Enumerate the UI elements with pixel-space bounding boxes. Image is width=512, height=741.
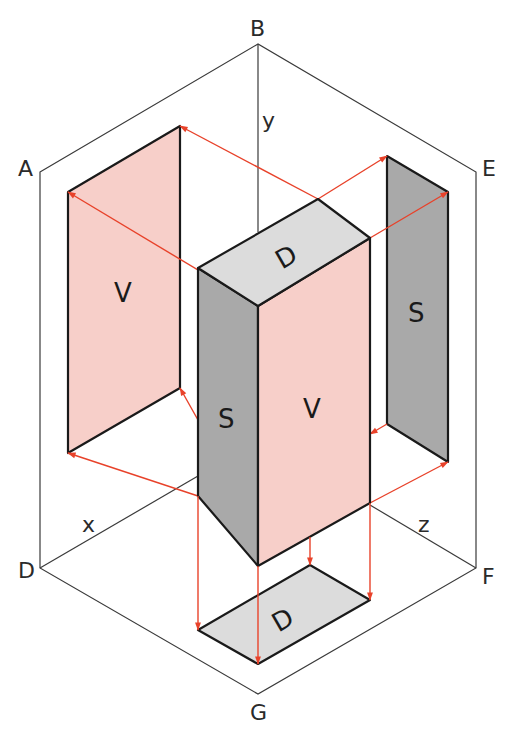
axis-label-y: y [262,108,275,133]
projection-line [180,126,318,199]
face-label-left-v: V [114,278,132,308]
axis-label-x: x [82,512,95,537]
corner-label-g: G [250,700,267,725]
corner-label-b: B [250,16,265,41]
axis-label-z: z [418,512,430,537]
projection-line [68,453,198,496]
corner-label-f: F [482,564,495,589]
face-label-front-v: V [303,394,321,424]
corner-label-e: E [482,156,496,181]
projection-line [180,388,198,420]
projection-line [370,424,387,434]
corner-label-d: D [18,558,35,583]
projection-line [370,462,448,503]
corner-label-a: A [18,156,33,181]
projection-diagram: A B E F G D y x z V V S S D D [0,0,512,741]
projection-line [318,156,387,199]
face-label-side-s: S [218,404,235,434]
face-label-right-s: S [408,298,425,328]
x-axis-line [40,476,198,568]
